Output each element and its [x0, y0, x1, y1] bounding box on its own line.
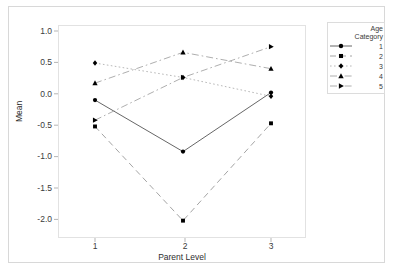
data-point-s2-x1: [93, 125, 97, 129]
series-line-1: [95, 93, 271, 152]
data-point-s5-x3: [269, 44, 274, 49]
data-point-s3-x3: [269, 94, 274, 100]
data-point-s2-x3: [269, 121, 273, 125]
series-line-2: [95, 123, 271, 220]
legend-marker-1: [339, 44, 343, 48]
legend-marker-4: [338, 73, 343, 78]
legend-marker-2: [339, 54, 343, 58]
data-point-s1-x1: [93, 98, 97, 102]
legend-marker-5: [339, 83, 344, 88]
data-point-s2-x2: [181, 219, 185, 223]
series-lines: [95, 47, 271, 221]
series-markers: [92, 44, 273, 223]
legend-marker-3: [339, 63, 344, 69]
chart-figure: 1.0 0.5 0.0 -0.5 -1.0 -1.5 -2.0 1 2 3 Pa…: [0, 0, 395, 271]
data-point-s4-x2: [180, 50, 185, 55]
legend-sample-svg: [327, 22, 385, 94]
series-line-5: [95, 47, 271, 120]
data-point-s5-x1: [93, 118, 98, 123]
data-point-s3-x1: [93, 60, 98, 66]
data-point-s1-x2: [181, 149, 185, 153]
